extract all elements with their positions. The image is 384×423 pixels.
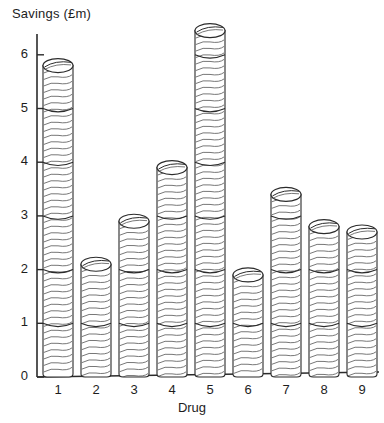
bar-chart-figure: Savings (£m) 0123456 123456789 Drug <box>0 0 384 423</box>
bar-cylinder <box>347 225 377 377</box>
y-tick-label: 6 <box>12 46 28 61</box>
bar-cylinder <box>43 59 73 377</box>
x-tick-label: 3 <box>119 382 149 397</box>
x-tick-label: 2 <box>81 382 111 397</box>
y-tick-label: 2 <box>12 261 28 276</box>
x-tick-label: 4 <box>157 382 187 397</box>
x-tick-label: 5 <box>195 382 225 397</box>
x-tick-label: 7 <box>271 382 301 397</box>
y-tick-label: 3 <box>12 207 28 222</box>
bar-cylinder <box>119 214 149 378</box>
x-tick-label: 9 <box>347 382 377 397</box>
bar-cylinder <box>81 257 111 377</box>
bar-cylinder <box>309 220 339 377</box>
y-tick-label: 5 <box>12 100 28 115</box>
y-tick-label: 4 <box>12 153 28 168</box>
bar-cylinder <box>233 268 263 377</box>
x-tick-label: 8 <box>309 382 339 397</box>
x-tick-label: 1 <box>43 382 73 397</box>
y-tick-label: 1 <box>12 314 28 329</box>
bar-body <box>347 232 377 377</box>
bar-cylinder <box>195 24 225 377</box>
bar-body <box>119 221 149 377</box>
x-axis-title: Drug <box>0 400 384 415</box>
plot-area <box>0 0 384 423</box>
bar-cylinder <box>157 161 187 377</box>
x-tick-label: 6 <box>233 382 263 397</box>
bars-group <box>43 24 377 379</box>
y-tick-label: 0 <box>12 368 28 383</box>
bar-cylinder <box>271 187 301 377</box>
